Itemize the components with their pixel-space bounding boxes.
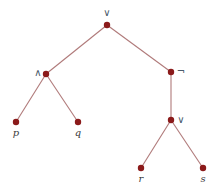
- edge-and-q: [46, 74, 78, 122]
- label-and: ∧: [34, 67, 41, 78]
- node-p: [13, 119, 19, 125]
- label-or2: ∨: [177, 114, 184, 125]
- node-not: [168, 69, 174, 75]
- node-q: [75, 119, 81, 125]
- node-s: [200, 165, 206, 171]
- edge-and-p: [16, 74, 46, 122]
- label-q: q: [75, 127, 81, 138]
- node-r: [138, 165, 144, 171]
- label-s: s: [200, 173, 205, 184]
- label-p: p: [13, 127, 20, 138]
- edge-or2-r: [141, 120, 171, 168]
- label-not: ¬: [177, 66, 185, 77]
- tree-nodes: [13, 22, 206, 171]
- edge-root-not: [107, 25, 171, 72]
- tree-edges: [16, 25, 203, 168]
- label-r: r: [139, 173, 145, 184]
- tree-labels: ∨∧¬pq∨rs: [13, 7, 206, 184]
- node-root: [104, 22, 110, 28]
- node-or2: [168, 117, 174, 123]
- node-and: [43, 71, 49, 77]
- expression-tree-diagram: ∨∧¬pq∨rs: [0, 0, 218, 196]
- edge-root-and: [46, 25, 107, 74]
- label-root: ∨: [103, 7, 110, 18]
- edge-or2-s: [171, 120, 203, 168]
